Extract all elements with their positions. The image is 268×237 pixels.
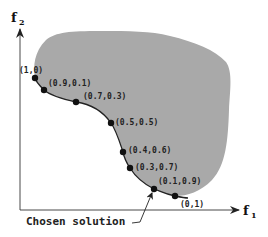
point-1-0 [32, 75, 38, 81]
label-0.3-0.7: (0.3,0.7) [135, 163, 178, 172]
x-axis-label: f 1 [243, 203, 257, 220]
label-0.4-0.6: (0.4,0.6) [128, 146, 171, 155]
point-0.1-0.9 [151, 186, 157, 192]
svg-text:f: f [243, 203, 250, 218]
point-0.5-0.5 [108, 120, 114, 126]
label-0.1-0.9: (0.1,0.9) [158, 177, 201, 186]
label-0.7-0.3: (0.7,0.3) [83, 92, 126, 101]
chosen-solution-leader [132, 193, 152, 223]
point-0.7-0.3 [73, 99, 79, 105]
label-0-1: (0,1) [180, 200, 204, 209]
label-0.9-0.1: (0.9,0.1) [48, 79, 91, 88]
point-0-1 [172, 193, 178, 199]
label-0.5-0.5: (0.5,0.5) [115, 118, 158, 127]
svg-text:1: 1 [251, 210, 257, 220]
label-1-0: (1,0) [19, 66, 43, 75]
point-0.9-0.1 [41, 87, 47, 93]
y-axis-label: f 2 [11, 10, 25, 27]
chosen-solution-caption: Chosen solution [26, 215, 125, 228]
point-0.4-0.6 [120, 149, 126, 155]
point-0.3-0.7 [127, 165, 133, 171]
svg-text:f: f [11, 10, 18, 25]
svg-text:2: 2 [19, 17, 25, 27]
pareto-diagram: f 2 f 1 (1,0) (0.9,0.1) (0.7,0.3) (0.5,0… [0, 0, 268, 237]
